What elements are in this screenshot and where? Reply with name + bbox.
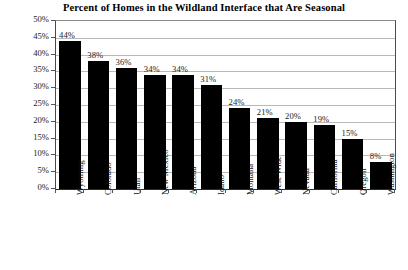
bar-value-label: 36% [116,57,132,67]
y-axis-tick-label: 50% [7,14,49,24]
x-axis-category-label: Montana [244,121,256,195]
y-axis-tick-label: 25% [7,98,49,108]
x-axis-category-label: Arizona [187,121,199,195]
y-axis-tick-label: 0% [7,182,49,192]
bar-value-label: 34% [172,64,188,74]
chart-title: Percent of Homes in the Wildland Interfa… [0,2,408,13]
bar-value-label: 8% [370,151,381,161]
bar-value-label: 24% [229,97,245,107]
bar-value-label: 20% [285,111,301,121]
bar-value-label: 21% [257,107,273,117]
y-axis-tick-label: 30% [7,81,49,91]
y-axis-tick-label: 45% [7,31,49,41]
x-axis-category-label: California [328,121,340,195]
bar-value-label: 15% [342,128,358,138]
bar-value-label: 38% [87,50,103,60]
x-axis-category-label: Wyoming [74,121,86,195]
bar-value-label: 44% [59,30,75,40]
x-axis-category-label: Washington [385,121,397,195]
y-axis-tick-label: 35% [7,64,49,74]
y-axis-tick-label: 5% [7,165,49,175]
x-axis-category-label: Colorado [102,121,114,195]
y-axis-tick-label: 20% [7,115,49,125]
bar-value-label: 31% [200,74,216,84]
bar-value-label: 34% [144,64,160,74]
y-axis-tick-label: 15% [7,132,49,142]
x-axis-category-label: Utah [131,121,143,195]
y-axis-tick-label: 40% [7,48,49,58]
x-axis-category-label: Idaho [215,121,227,195]
x-axis-category-label: Nevada [300,121,312,195]
y-axis-tick-label: 10% [7,148,49,158]
x-axis-category-label: Oregon [357,121,369,195]
bar-value-label: 19% [313,114,329,124]
x-axis-category-label: West-Wide [272,121,284,195]
x-axis-category-label: New Mexico [159,121,171,195]
bar-chart: Percent of Homes in the Wildland Interfa… [0,0,408,270]
x-axis-tick [55,189,56,193]
